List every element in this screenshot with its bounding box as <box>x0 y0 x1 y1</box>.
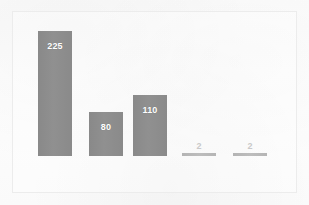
bar-chart-figure: 225 Android 80 iOS 110 PC 2 Windows iPHO… <box>0 0 309 205</box>
bar-windows-iphone[interactable]: 2 <box>182 153 216 156</box>
plot-area: 225 Android 80 iOS 110 PC 2 Windows iPHO… <box>0 0 309 205</box>
bar-value-pc: 110 <box>133 105 167 115</box>
bar-android[interactable]: 225 <box>38 31 72 156</box>
bar-pc[interactable]: 110 <box>133 95 167 156</box>
bar-ios[interactable]: 80 <box>89 112 123 156</box>
bar-value-windows-iphone: 2 <box>182 141 216 151</box>
bar-value-ios: 80 <box>89 122 123 132</box>
bar-another[interactable]: 2 <box>233 153 267 156</box>
bar-value-another: 2 <box>233 141 267 151</box>
bar-value-android: 225 <box>38 41 72 51</box>
